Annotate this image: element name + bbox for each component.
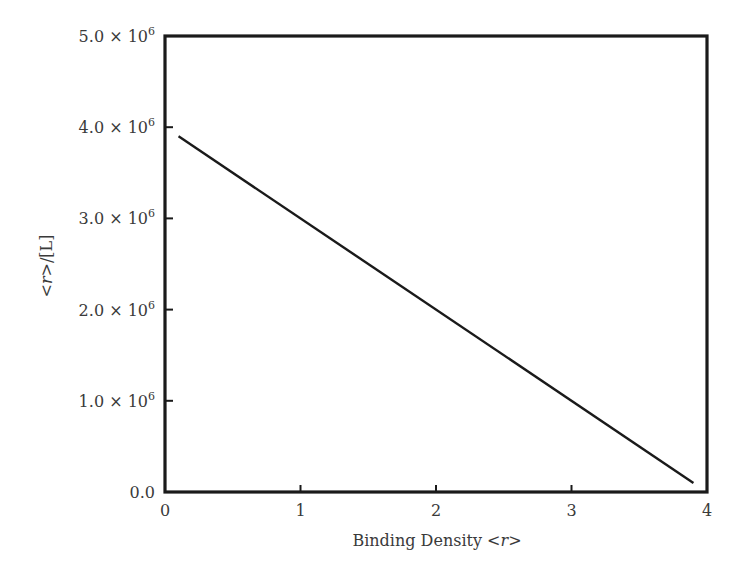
- scatchard-line: [179, 136, 694, 483]
- scatchard-plot: 01234 0.01.0 × 1062.0 × 1063.0 × 1064.0 …: [0, 0, 746, 573]
- y-tick-label: 3.0 × 106: [79, 207, 155, 228]
- y-tick-label: 1.0 × 106: [79, 390, 155, 411]
- plot-border: [165, 36, 707, 492]
- x-axis-ticks: 01234: [160, 485, 712, 520]
- data-series: [179, 136, 694, 483]
- plot-frame: [165, 36, 707, 492]
- x-axis-title: Binding Density <r>: [352, 531, 521, 550]
- x-tick-label: 2: [431, 501, 441, 520]
- y-tick-label: 0.0: [130, 483, 155, 502]
- y-axis-ticks: 0.01.0 × 1062.0 × 1063.0 × 1064.0 × 1065…: [79, 25, 173, 502]
- y-axis-title: <r>/[L]: [37, 235, 56, 298]
- x-tick-label: 0: [160, 501, 170, 520]
- x-tick-label: 4: [702, 501, 712, 520]
- y-tick-label: 5.0 × 106: [79, 25, 155, 46]
- y-tick-label: 4.0 × 106: [79, 116, 155, 137]
- x-tick-label: 1: [295, 501, 305, 520]
- x-tick-label: 3: [566, 501, 576, 520]
- y-tick-label: 2.0 × 106: [79, 299, 155, 320]
